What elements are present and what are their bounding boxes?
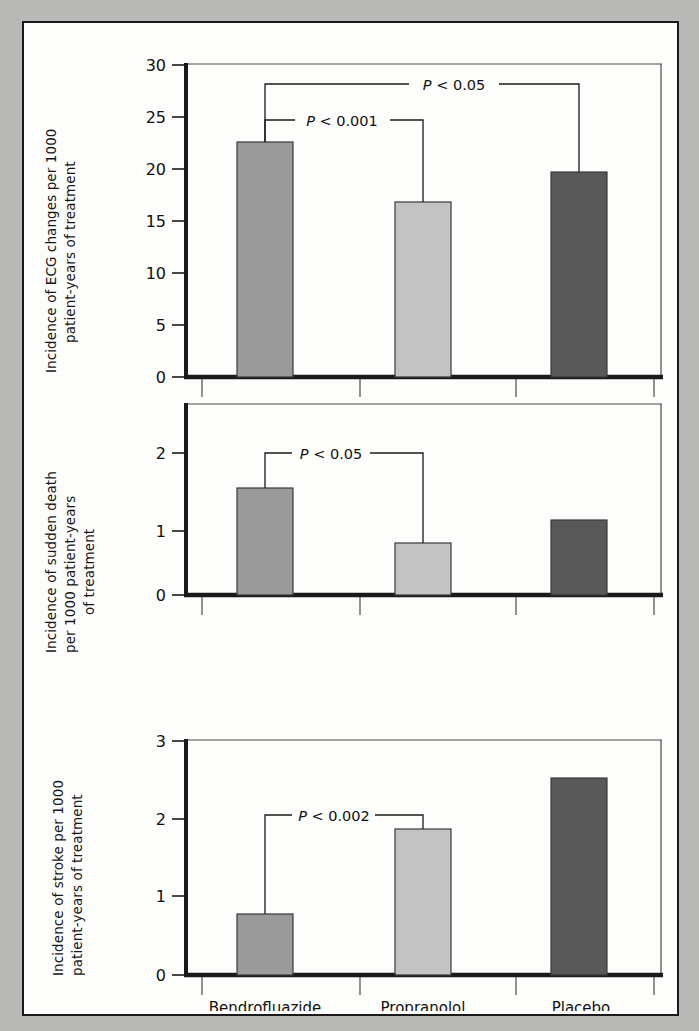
stroke-category-ticks	[202, 977, 654, 995]
sd-category-ticks	[202, 597, 654, 615]
stroke-p0002-rest: < 0.002	[307, 808, 370, 824]
ecg-bar-placebo	[551, 172, 607, 377]
stroke-tick-1: 1	[156, 887, 166, 906]
ecg-p0001-rest: < 0.001	[315, 113, 378, 129]
sd-tick-1: 1	[156, 522, 166, 541]
category-label-bendrofluazide: Bendrofluazide	[209, 999, 322, 1011]
ecg-p005-text: P < 0.05	[423, 77, 485, 93]
ecg-tick-30: 30	[146, 56, 166, 75]
ecg-bar-bendrofluazide	[237, 142, 293, 377]
chart-sudden-death-svg: Incidence of sudden death per 1000 patie…	[24, 403, 677, 678]
stroke-tick-2: 2	[156, 810, 166, 829]
sd-bar-propranolol	[395, 543, 451, 595]
ecg-p0001-text: P < 0.001	[306, 113, 378, 129]
stroke-bar-bendrofluazide	[237, 914, 293, 975]
ecg-tick-0: 0	[156, 368, 166, 387]
sd-p005-rest: < 0.05	[309, 446, 363, 462]
sd-ylabel-line1: Incidence of sudden death	[43, 471, 59, 653]
chart-stroke: Incidence of stroke per 1000 patient-yea…	[24, 691, 677, 1011]
ecg-tick-5: 5	[156, 316, 166, 335]
stroke-ylabel-line1: Incidence of stroke per 1000	[50, 780, 66, 976]
ecg-p005-rest: < 0.05	[432, 77, 486, 93]
ecg-tick-marks	[172, 65, 185, 377]
stroke-p0002-text: P < 0.002	[298, 808, 370, 824]
sd-p005-text: P < 0.05	[300, 446, 362, 462]
chart-sudden-death: Incidence of sudden death per 1000 patie…	[24, 403, 677, 678]
sd-tick-0: 0	[156, 586, 166, 605]
stroke-ylabel-line2: patient-years of treatment	[69, 794, 85, 976]
sd-tick-marks	[172, 453, 185, 595]
category-label-placebo: Placebo	[552, 999, 611, 1011]
chart-ecg-svg: Incidence of ECG changes per 1000 patien…	[24, 23, 677, 403]
ecg-ylabel-line2: patient-years of treatment	[62, 161, 78, 343]
ecg-tick-15: 15	[146, 212, 166, 231]
sd-ylabel-line3: of treatment	[81, 529, 97, 615]
ecg-tick-20: 20	[146, 160, 166, 179]
ecg-tick-10: 10	[146, 264, 166, 283]
sd-p005-p: P	[300, 446, 309, 462]
sd-tick-2: 2	[156, 444, 166, 463]
ecg-bar-propranolol	[395, 202, 451, 377]
ecg-p005-p: P	[423, 77, 432, 93]
chart-stroke-svg: Incidence of stroke per 1000 patient-yea…	[24, 691, 677, 1011]
figure-page: Incidence of ECG changes per 1000 patien…	[0, 0, 699, 1031]
sd-ylabel-line2: per 1000 patient-years	[62, 496, 78, 653]
stroke-tick-0: 0	[156, 966, 166, 985]
chart-ecg: Incidence of ECG changes per 1000 patien…	[24, 23, 677, 403]
category-label-propranolol: Propranolol	[381, 999, 466, 1011]
stroke-tick-marks	[172, 741, 185, 975]
sd-bar-bendrofluazide	[237, 488, 293, 595]
figure-panel: Incidence of ECG changes per 1000 patien…	[22, 21, 679, 1016]
stroke-bar-propranolol	[395, 829, 451, 975]
stroke-p0002-p: P	[298, 808, 307, 824]
stroke-bar-placebo	[551, 778, 607, 975]
ecg-ylabel-line1: Incidence of ECG changes per 1000	[43, 128, 59, 373]
ecg-tick-25: 25	[146, 108, 166, 127]
stroke-tick-3: 3	[156, 732, 166, 751]
ecg-p0001-p: P	[306, 113, 315, 129]
sd-bar-placebo	[551, 520, 607, 595]
ecg-category-ticks	[202, 379, 654, 397]
